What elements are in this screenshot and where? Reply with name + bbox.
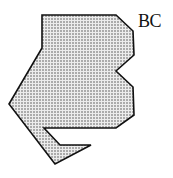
region-label: BC — [138, 11, 161, 31]
stippled-region-shape — [9, 15, 134, 164]
